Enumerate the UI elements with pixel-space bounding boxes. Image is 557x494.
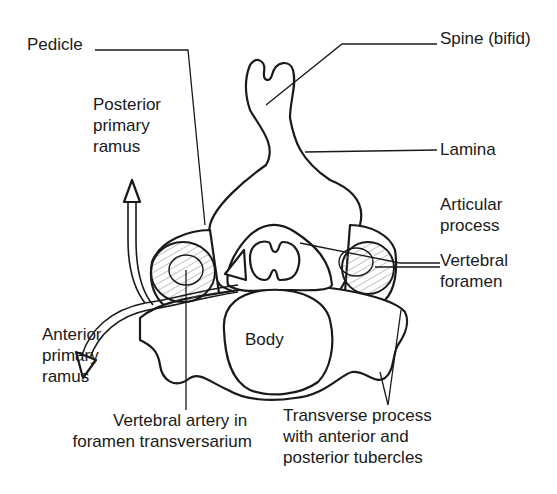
posterior-ramus-nerve-inner <box>136 200 153 305</box>
label-articular: Articular process <box>440 195 507 235</box>
label-posterior-ramus: Posterior primary ramus <box>93 95 166 156</box>
cervical-vertebra-diagram: Body Pedicle Spine (bifid) Posterior pri… <box>0 0 557 494</box>
posterior-ramus-arrow <box>124 180 140 202</box>
label-transverse-process: Transverse process with anterior and pos… <box>282 406 436 467</box>
body-label: Body <box>245 330 284 349</box>
label-pedicle: Pedicle <box>27 35 83 54</box>
lamina-leader <box>305 150 437 152</box>
right-articular-facet <box>342 242 394 294</box>
label-spine: Spine (bifid) <box>440 29 531 48</box>
label-vertebral-foramen: Vertebral foramen <box>440 251 513 291</box>
label-vertebral-artery: Vertebral artery in foramen transversari… <box>72 411 252 451</box>
label-anterior-ramus: Anterior primary ramus <box>42 325 106 386</box>
left-articular-facet <box>151 242 215 302</box>
label-lamina: Lamina <box>440 140 496 159</box>
